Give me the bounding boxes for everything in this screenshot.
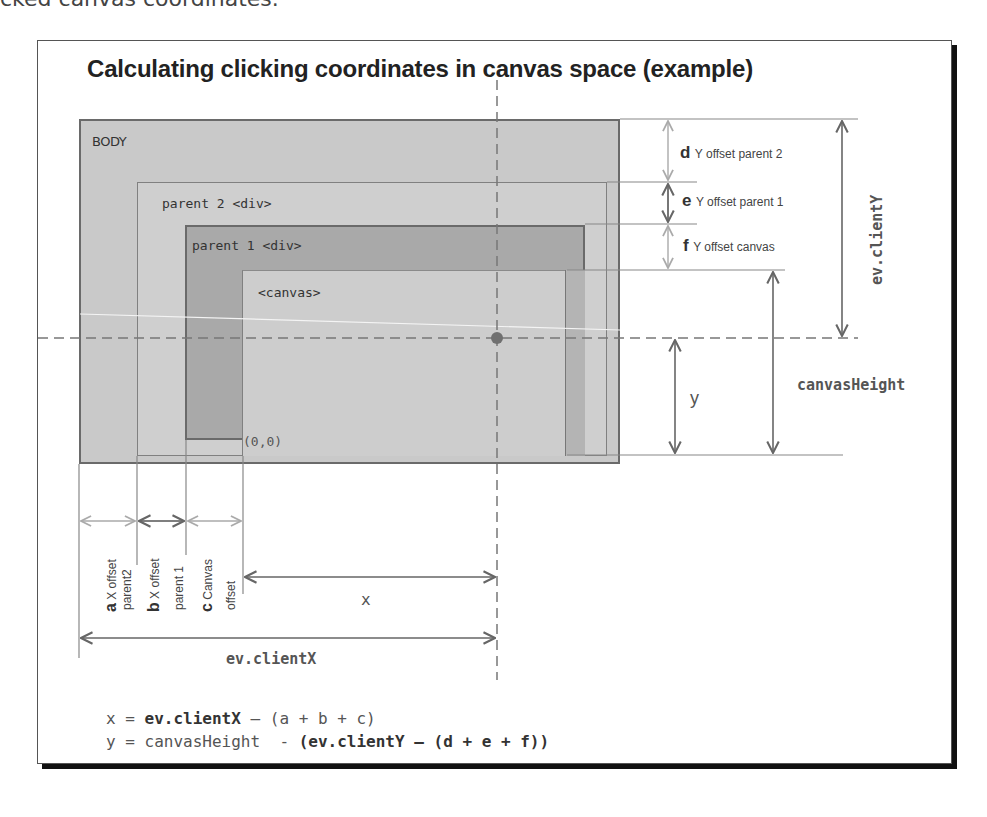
offset-a-label-line1: X offset (105, 559, 119, 599)
formula-x-clientx: ev.clientX (145, 709, 241, 728)
measurement-lines (0, 0, 987, 817)
offset-e-label: Y offset parent 1 (696, 195, 784, 209)
offset-c-annotation: c Canvas (198, 559, 216, 612)
formula-y-clienty: (ev.clientY – (d + e + f)) (299, 732, 549, 751)
formula-y-lhs: y = (106, 732, 145, 751)
offset-f-letter: f (683, 236, 689, 255)
offset-b-label-line2: parent 1 (172, 566, 186, 610)
offset-a-label-line2: parent2 (120, 569, 134, 610)
offset-c-label-line2: offset (224, 581, 238, 610)
client-x-label: ev.clientX (226, 650, 316, 668)
formula-y-canvas-height: canvasHeight - (145, 732, 299, 751)
offset-f-label: Y offset canvas (693, 240, 775, 254)
highlight-line (80, 314, 620, 330)
offset-a-letter: a (102, 603, 119, 612)
offset-c-letter: c (198, 603, 215, 612)
offset-e-letter: e (682, 191, 691, 210)
offset-b-annotation: b X offset (145, 558, 163, 612)
offset-c-label-line1: Canvas (201, 559, 215, 600)
formula-y: y = canvasHeight - (ev.clientY – (d + e … (106, 732, 549, 751)
client-y-label: ev.clientY (868, 195, 886, 285)
formula-x-lhs: x = (106, 709, 145, 728)
offset-a-annotation: a X offset (102, 559, 120, 612)
x-label: x (361, 590, 371, 609)
click-point-icon (491, 332, 503, 344)
y-label: y (690, 388, 699, 409)
formula-x: x = ev.clientX – (a + b + c) (106, 709, 376, 728)
offset-b-letter: b (145, 602, 162, 612)
offset-b-label-line1: X offset (148, 558, 162, 598)
offset-d-label: Y offset parent 2 (695, 147, 783, 161)
offset-e-annotation: e Y offset parent 1 (682, 191, 784, 211)
formula-x-rest: – (a + b + c) (241, 709, 376, 728)
canvas-height-label: canvasHeight (797, 376, 905, 394)
offset-d-annotation: d Y offset parent 2 (680, 143, 782, 163)
offset-d-letter: d (680, 143, 690, 162)
offset-f-annotation: f Y offset canvas (683, 236, 775, 256)
